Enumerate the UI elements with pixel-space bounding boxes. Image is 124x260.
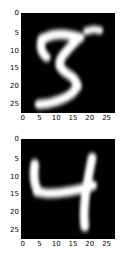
y-tick-label: 0 [1,10,19,17]
x-tick-label: 25 [99,115,115,122]
x-tick-label: 25 [99,241,115,248]
x-tick-label: 5 [31,115,47,122]
x-tick-label: 10 [48,115,64,122]
y-tick-label: 10 [1,47,19,54]
x-tick-label: 15 [65,241,81,248]
y-tick-label: 10 [1,173,19,180]
image-axes-digit-4 [21,139,115,239]
y-tick-label: 25 [1,227,19,234]
panel-digit-5: 0 5 10 15 20 25 0 5 10 15 20 25 [0,0,124,126]
y-tick-label: 0 [1,136,19,143]
x-tick-label: 15 [65,115,81,122]
x-tick-label: 20 [82,115,98,122]
y-axis-ticks-panel-0: 0 5 10 15 20 25 [0,13,19,113]
y-tick-label: 15 [1,191,19,198]
y-tick-label: 5 [1,29,19,36]
y-tick-label: 20 [1,83,19,90]
x-axis-ticks-panel-1: 0 5 10 15 20 25 [21,241,115,251]
panel-digit-4: 0 5 10 15 20 25 0 5 10 15 20 25 [0,126,124,252]
x-tick-label: 5 [31,241,47,248]
y-tick-label: 5 [1,155,19,162]
x-tick-label: 10 [48,241,64,248]
mnist-image-digit-4 [21,139,115,239]
x-axis-ticks-panel-0: 0 5 10 15 20 25 [21,115,115,125]
x-tick-label: 20 [82,241,98,248]
y-tick-label: 15 [1,65,19,72]
y-axis-ticks-panel-1: 0 5 10 15 20 25 [0,139,19,239]
x-tick-label: 0 [15,115,31,122]
y-tick-label: 25 [1,101,19,108]
x-tick-label: 0 [15,241,31,248]
mnist-image-digit-5 [21,13,115,113]
y-tick-label: 20 [1,209,19,216]
image-axes-digit-5 [21,13,115,113]
figure-canvas: 0 5 10 15 20 25 0 5 10 15 20 25 0 5 10 1… [0,0,124,260]
